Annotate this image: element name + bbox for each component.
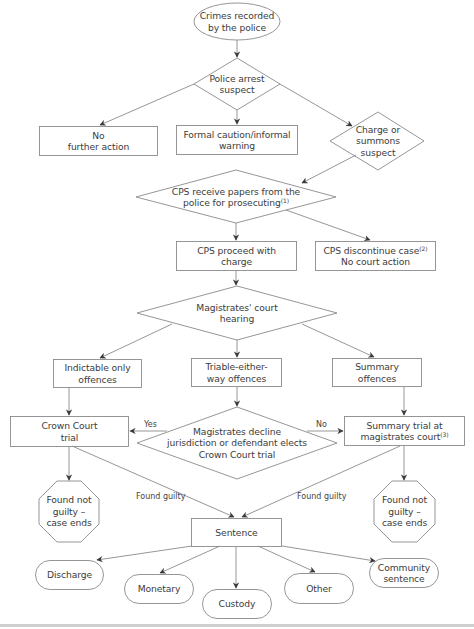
triable-either-way-label: Triable-either- way offences (191, 358, 282, 387)
community-sentence-label: Community sentence (369, 558, 439, 588)
magistrates-hearing-label: Magistrates' court hearing (137, 301, 337, 325)
edge-arrest-to-charge (280, 84, 352, 126)
footnote-2: (2) (419, 245, 427, 252)
summary-trial-line2: magistrates court (360, 431, 440, 442)
not-guilty-right-label: Found not guilty – case ends (374, 481, 435, 542)
edge-hearing-to-summary (302, 324, 374, 357)
cps-proceed-label: CPS proceed with charge (176, 241, 297, 271)
no-further-action-label: No further action (39, 126, 158, 156)
edge-hearing-to-indictable (100, 324, 172, 358)
cps-discontinue-label: CPS discontinue case(2)No court action (315, 241, 436, 271)
indictable-only-label: Indictable only offences (53, 359, 142, 388)
discharge-label: Discharge (35, 560, 104, 590)
not-guilty-left-label: Found not guilty – case ends (39, 481, 99, 542)
edge-sentence-to-discharge (97, 546, 192, 560)
cps-discontinue-line1: CPS discontinue case (323, 245, 419, 256)
summary-trial-line1: Summary trial at (366, 420, 442, 431)
summary-offences-label: Summary offences (332, 358, 422, 387)
police-arrest-label: Police arrest suspect (194, 72, 280, 96)
cps-discontinue-line2: No court action (341, 256, 410, 267)
other-label: Other (284, 573, 354, 604)
monetary-label: Monetary (124, 574, 194, 604)
magistrates-decline-label: Magistrates decline jurisdiction or defe… (137, 425, 337, 461)
edge-label-found-guilty-right: Found guilty (297, 492, 346, 501)
edge-arrest-to-nfa (100, 84, 194, 125)
edge-cps-to-discontinue (286, 210, 370, 240)
crimes-recorded-label: Crimes recorded by the police (194, 3, 280, 40)
edge-sentence-to-monetary (160, 546, 220, 573)
cps-receive-label: CPS receive papers from the police for p… (136, 185, 336, 209)
edge-sentence-to-community (282, 546, 375, 561)
custody-label: Custody (202, 589, 272, 619)
crown-court-trial-label: Crown Court trial (10, 416, 129, 447)
edge-label-found-guilty-left: Found guilty (136, 492, 185, 501)
edge-label-yes: Yes (144, 420, 157, 429)
summary-trial-label: Summary trial atmagistrates court(3) (344, 416, 465, 446)
footnote-1: (1) (281, 197, 289, 204)
sentence-label: Sentence (191, 518, 282, 547)
footnote-3: (3) (440, 431, 448, 438)
bottom-divider (0, 624, 474, 627)
edge-label-no: No (316, 420, 327, 429)
formal-caution-label: Formal caution/informal warning (176, 125, 298, 155)
charge-or-summons-label: Charge or summons suspect (330, 122, 426, 160)
